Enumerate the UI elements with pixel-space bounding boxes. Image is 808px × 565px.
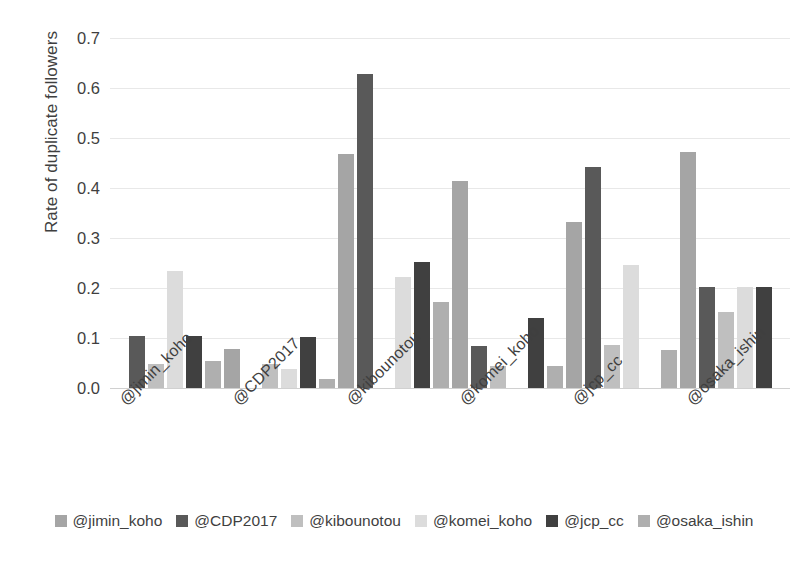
legend-swatch-icon bbox=[291, 515, 303, 527]
bar-group bbox=[110, 38, 224, 388]
bar-slot bbox=[357, 38, 373, 388]
bar[interactable] bbox=[452, 181, 468, 389]
bar[interactable] bbox=[300, 337, 316, 388]
y-axis-tick-label: 0.2 bbox=[38, 279, 100, 298]
legend-swatch-icon bbox=[415, 515, 427, 527]
bar-group bbox=[338, 38, 452, 388]
legend-swatch-icon bbox=[55, 515, 67, 527]
bar-slot bbox=[718, 38, 734, 388]
bar-slot bbox=[699, 38, 715, 388]
bar[interactable] bbox=[281, 369, 297, 388]
legend-item[interactable]: @komei_koho bbox=[415, 512, 532, 530]
x-axis-label-cell: @jimin_koho bbox=[110, 388, 223, 488]
bar-slot bbox=[490, 38, 506, 388]
bar[interactable] bbox=[547, 366, 563, 389]
legend-item[interactable]: @jcp_cc bbox=[546, 512, 624, 530]
legend-item[interactable]: @osaka_ishin bbox=[638, 512, 754, 530]
y-axis-tick-label: 0.0 bbox=[38, 379, 100, 398]
bar-group bbox=[680, 38, 794, 388]
bar-chart: Rate of duplicate followers 0.00.10.20.3… bbox=[0, 0, 808, 565]
bar-slot bbox=[433, 38, 449, 388]
y-axis-tick-label: 0.1 bbox=[38, 329, 100, 348]
bar[interactable] bbox=[224, 349, 240, 388]
y-axis-tick-label: 0.3 bbox=[38, 229, 100, 248]
bar[interactable] bbox=[661, 350, 677, 389]
bar[interactable] bbox=[414, 262, 430, 388]
x-axis-tick-labels: @jimin_koho@CDP2017@kibounotou@komei_koh… bbox=[110, 388, 790, 488]
bar[interactable] bbox=[167, 271, 183, 389]
bar-slot bbox=[224, 38, 240, 388]
x-axis-label-cell: @osaka_ishin bbox=[677, 388, 790, 488]
bar-group bbox=[452, 38, 566, 388]
x-axis-label-cell: @jcp_cc bbox=[563, 388, 676, 488]
bar-slot bbox=[680, 38, 696, 388]
legend-swatch-icon bbox=[176, 515, 188, 527]
x-axis-label-cell: @CDP2017 bbox=[223, 388, 336, 488]
bar[interactable] bbox=[566, 222, 582, 388]
legend-swatch-icon bbox=[546, 515, 558, 527]
bar-slot bbox=[376, 38, 392, 388]
bar-slot bbox=[566, 38, 582, 388]
legend-swatch-icon bbox=[638, 515, 650, 527]
bar-group bbox=[224, 38, 338, 388]
legend-item[interactable]: @kibounotou bbox=[291, 512, 401, 530]
y-axis-tick-label: 0.7 bbox=[38, 29, 100, 48]
bar-slot bbox=[338, 38, 354, 388]
bar-groups bbox=[110, 38, 790, 388]
legend-label: @kibounotou bbox=[309, 512, 401, 530]
bar-slot bbox=[243, 38, 259, 388]
bar-slot bbox=[661, 38, 677, 388]
legend-item[interactable]: @CDP2017 bbox=[176, 512, 277, 530]
bar-slot bbox=[604, 38, 620, 388]
x-axis-label-cell: @kibounotou bbox=[337, 388, 450, 488]
bar-slot bbox=[262, 38, 278, 388]
bar[interactable] bbox=[680, 152, 696, 388]
bar-slot bbox=[300, 38, 316, 388]
bar[interactable] bbox=[623, 265, 639, 389]
bar[interactable] bbox=[357, 74, 373, 388]
bar-slot bbox=[585, 38, 601, 388]
legend-label: @komei_koho bbox=[433, 512, 532, 530]
chart-legend: @jimin_koho@CDP2017@kibounotou@komei_koh… bbox=[0, 512, 808, 530]
y-axis-tick-label: 0.6 bbox=[38, 79, 100, 98]
bar-group bbox=[566, 38, 680, 388]
bar-slot bbox=[110, 38, 126, 388]
bar[interactable] bbox=[338, 154, 354, 388]
bar-slot bbox=[547, 38, 563, 388]
bar-slot bbox=[642, 38, 658, 388]
bar-slot bbox=[205, 38, 221, 388]
bar-slot bbox=[129, 38, 145, 388]
bar-slot bbox=[148, 38, 164, 388]
bar[interactable] bbox=[433, 302, 449, 389]
bar-slot bbox=[623, 38, 639, 388]
bar-slot bbox=[319, 38, 335, 388]
x-axis-label-cell: @komei_koho bbox=[450, 388, 563, 488]
plot-area: 0.00.10.20.30.40.50.60.7 bbox=[110, 38, 790, 388]
bar-slot bbox=[775, 38, 791, 388]
bar[interactable] bbox=[585, 167, 601, 388]
y-axis-tick-label: 0.5 bbox=[38, 129, 100, 148]
bar-slot bbox=[452, 38, 468, 388]
legend-item[interactable]: @jimin_koho bbox=[55, 512, 163, 530]
y-axis-tick-label: 0.4 bbox=[38, 179, 100, 198]
bar-slot bbox=[471, 38, 487, 388]
legend-label: @osaka_ishin bbox=[656, 512, 754, 530]
bar[interactable] bbox=[319, 379, 335, 388]
legend-label: @jcp_cc bbox=[564, 512, 624, 530]
bar[interactable] bbox=[205, 361, 221, 389]
legend-label: @CDP2017 bbox=[194, 512, 277, 530]
legend-label: @jimin_koho bbox=[73, 512, 163, 530]
